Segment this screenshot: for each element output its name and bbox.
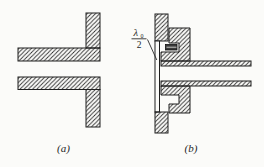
waveguide-top-wall-a [18,48,100,61]
waveguide-coupling-diagram: (a) λ 0 2 (b) [0,0,264,167]
lower-flange-a [86,90,100,128]
waveguide-top-wall-b [161,61,251,66]
figure-a: (a) [18,13,100,155]
caption-a: (a) [57,142,70,155]
lambda-symbol: λ [133,27,139,38]
figure-b: λ 0 2 (b) [132,14,252,155]
caption-b: (b) [185,142,198,155]
waveguide-bottom-wall-a [18,77,100,90]
lambda-subscript: 0 [141,33,144,39]
fraction-denominator: 2 [137,40,142,50]
waveguide-bottom-wall-b [161,81,251,86]
choke-flange-lower [161,86,190,113]
flat-plate-lower-block [155,112,168,133]
flat-plate-upper-block [155,14,168,41]
upper-flange-a [86,13,100,48]
flat-plate-web [155,41,160,112]
